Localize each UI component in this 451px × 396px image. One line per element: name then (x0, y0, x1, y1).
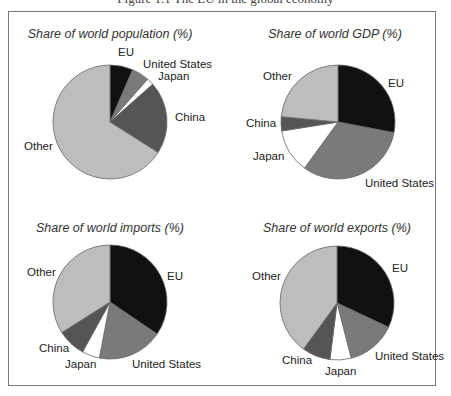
slice-label-united-states: United States (132, 358, 201, 370)
chart-title: Share of world population (%) (28, 27, 193, 41)
slice-label-china: China (246, 117, 277, 129)
slice-label-other: Other (263, 70, 292, 82)
slice-label-united-states: United States (375, 350, 444, 362)
chart-title: Share of world exports (%) (263, 221, 411, 235)
slice-label-china: China (39, 342, 70, 354)
slice-label-china: China (282, 354, 313, 366)
pie-charts-panel: Share of world population (%) EUUnited S… (0, 0, 451, 396)
slice-label-eu: EU (392, 262, 408, 274)
slice-label-united-states: United States (143, 58, 212, 70)
slice-label-japan: Japan (65, 358, 96, 370)
slice-label-japan: Japan (253, 150, 284, 162)
slice-label-united-states: United States (365, 177, 434, 189)
pie-slices (53, 245, 167, 359)
chart-title: Share of world GDP (%) (268, 27, 402, 41)
pie-slices (281, 65, 395, 179)
slice-label-eu: EU (118, 46, 134, 58)
slice-label-china: China (175, 111, 206, 123)
slice-label-japan: Japan (325, 365, 356, 377)
pie-chart-population: Share of world population (%) EUUnited S… (24, 27, 212, 179)
pie-slices (53, 65, 167, 179)
chart-title: Share of world imports (%) (36, 221, 184, 235)
pie-slices (280, 246, 394, 360)
pie-chart-gdp: Share of world GDP (%) EUUnited StatesJa… (246, 27, 434, 189)
slice-label-other: Other (252, 270, 281, 282)
pie-chart-imports: Share of world imports (%) EUUnited Stat… (27, 221, 201, 370)
slice-label-japan: Japan (158, 70, 189, 82)
slice-label-other: Other (24, 140, 53, 152)
pie-slice-eu (338, 65, 395, 133)
slice-label-eu: EU (388, 77, 404, 89)
slice-label-eu: EU (167, 270, 183, 282)
pie-chart-exports: Share of world exports (%) EUUnited Stat… (252, 221, 444, 377)
slice-label-other: Other (27, 266, 56, 278)
